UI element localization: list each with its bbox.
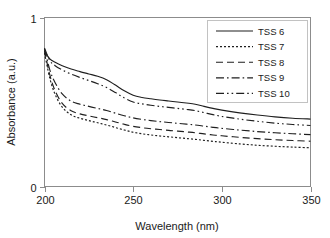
y-axis-title: Absorbance (a.u.) xyxy=(5,58,17,145)
y-axis-tick-labels: 01 xyxy=(30,13,36,194)
absorbance-spectra-chart: 200250300350 01 Wavelength (nm) Absorban… xyxy=(0,0,330,238)
x-tick-label-200: 200 xyxy=(36,194,54,206)
x-tick-label-300: 300 xyxy=(213,194,231,206)
x-axis-title: Wavelength (nm) xyxy=(135,220,218,232)
y-tick-label-0: 0 xyxy=(30,182,36,194)
y-axis-ticks xyxy=(40,19,45,188)
x-axis-tick-labels: 200250300350 xyxy=(36,194,320,206)
x-axis-ticks xyxy=(46,187,312,192)
legend-label-tss-10: TSS 10 xyxy=(258,88,290,99)
x-tick-label-250: 250 xyxy=(124,194,142,206)
chart-legend: TSS 6TSS 7TSS 8TSS 9TSS 10 xyxy=(208,21,308,103)
legend-label-tss-7: TSS 7 xyxy=(258,41,284,52)
legend-label-tss-9: TSS 9 xyxy=(258,72,284,83)
chart-figure: 200250300350 01 Wavelength (nm) Absorban… xyxy=(0,0,330,238)
y-tick-label-1: 1 xyxy=(30,13,36,25)
legend-label-tss-8: TSS 8 xyxy=(258,57,284,68)
x-tick-label-350: 350 xyxy=(302,194,320,206)
legend-label-tss-6: TSS 6 xyxy=(258,26,284,37)
